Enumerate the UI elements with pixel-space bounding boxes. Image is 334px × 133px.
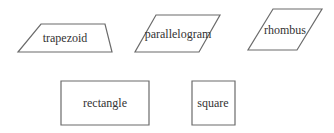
shapes-diagram: trapezoid parallelogram rhombus rectangl… [0, 0, 334, 133]
shape-rectangle: rectangle [61, 81, 149, 125]
square-label: square [197, 96, 228, 110]
trapezoid-label: trapezoid [43, 31, 88, 45]
shape-trapezoid: trapezoid [18, 24, 112, 52]
rhombus-label: rhombus [264, 23, 306, 37]
shape-rhombus: rhombus [248, 9, 322, 50]
shape-square: square [192, 81, 235, 125]
rectangle-label: rectangle [83, 96, 127, 110]
parallelogram-label: parallelogram [145, 27, 212, 41]
shape-parallelogram: parallelogram [135, 15, 220, 52]
